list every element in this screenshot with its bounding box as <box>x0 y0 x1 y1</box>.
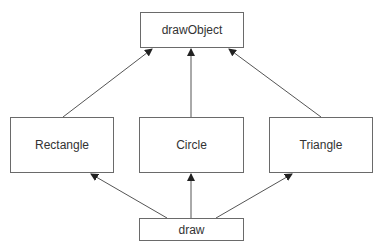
edge-draw-to-triangle <box>216 174 292 218</box>
node-label: draw <box>178 223 204 237</box>
edge-rectangle-to-drawobject <box>63 49 152 117</box>
node-triangle: Triangle <box>269 117 373 173</box>
node-drawobject: drawObject <box>140 12 244 48</box>
node-label: Rectangle <box>35 138 89 152</box>
node-label: Circle <box>176 138 207 152</box>
node-draw: draw <box>139 218 244 241</box>
edge-draw-to-rectangle <box>91 174 167 218</box>
node-label: drawObject <box>162 23 223 37</box>
node-rectangle: Rectangle <box>10 117 114 173</box>
node-label: Triangle <box>300 138 343 152</box>
edge-triangle-to-drawobject <box>229 49 321 117</box>
node-circle: Circle <box>139 117 244 173</box>
